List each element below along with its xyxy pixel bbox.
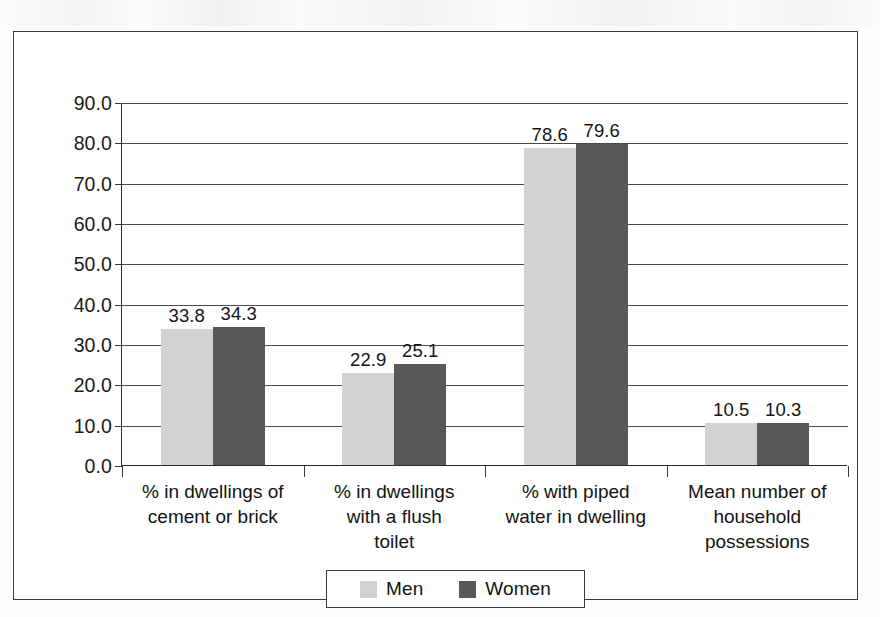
bar-value-label: 34.3 [221,303,257,325]
legend-swatch-icon [360,581,377,598]
x-axis-category-label: % in dwellings of cement or brick [122,479,304,529]
y-axis-tick-label: 10.0 [74,414,112,437]
legend-label: Men [386,578,423,600]
bar-men-2 [524,148,576,465]
y-axis-tick-label: 40.0 [74,293,112,316]
x-axis-tick [122,466,123,477]
bar-value-label: 79.6 [584,120,620,142]
gridline [122,184,848,185]
y-axis-tick-label: 60.0 [74,213,112,236]
gridline [122,103,848,104]
gridline [122,143,848,144]
y-axis-tick-label: 90.0 [74,92,112,115]
y-axis-tick-label: 30.0 [74,334,112,357]
y-axis-tick-label: 0.0 [85,455,112,478]
y-axis-tick [115,224,122,225]
bar-men-0 [161,329,213,465]
x-axis-category-label: % in dwellings with a flush toilet [304,479,486,554]
chart-plot-area: 0.010.020.030.040.050.060.070.080.090.0 … [121,103,847,466]
legend-swatch-icon [459,581,476,598]
x-axis-tick [304,466,305,477]
scan-canvas: 0.010.020.030.040.050.060.070.080.090.0 … [0,0,880,617]
legend-item-men: Men [360,578,423,600]
bar-women-0 [213,327,265,465]
bar-value-label: 33.8 [169,305,205,327]
legend-item-women: Women [459,578,551,600]
x-axis-category-label: Mean number of household possessions [667,479,849,554]
y-axis-tick-label: 70.0 [74,172,112,195]
y-axis-tick [115,184,122,185]
y-axis-tick [115,103,122,104]
y-axis-tick [115,385,122,386]
bar-women-3 [757,423,809,465]
gridline [122,224,848,225]
y-axis-tick [115,426,122,427]
bar-value-label: 25.1 [402,340,438,362]
y-axis-tick-label: 80.0 [74,132,112,155]
bar-men-3 [705,423,757,465]
chart-legend: MenWomen [326,570,585,608]
bar-men-1 [342,373,394,465]
gridline [122,264,848,265]
bar-value-label: 10.3 [765,399,801,421]
y-axis-tick [115,264,122,265]
figure-frame: 0.010.020.030.040.050.060.070.080.090.0 … [13,31,858,600]
y-axis-tick-label: 50.0 [74,253,112,276]
bar-value-label: 10.5 [713,399,749,421]
y-axis-tick [115,143,122,144]
x-axis-tick [848,466,849,477]
bar-value-label: 78.6 [532,124,568,146]
y-axis-tick-label: 20.0 [74,374,112,397]
x-axis-tick [667,466,668,477]
bar-value-label: 22.9 [350,349,386,371]
y-axis-tick [115,466,122,467]
x-axis-tick [485,466,486,477]
y-axis-tick [115,305,122,306]
bar-women-1 [394,364,446,465]
legend-label: Women [485,578,551,600]
bar-women-2 [576,144,628,465]
y-axis-tick [115,345,122,346]
x-axis-category-label: % with piped water in dwelling [485,479,667,529]
